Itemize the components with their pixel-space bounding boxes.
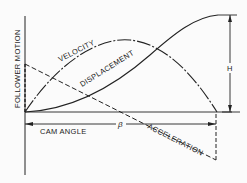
velocity-label: VELOCITY <box>57 38 96 64</box>
beta-label: β <box>117 120 123 129</box>
h-arrow-down-icon <box>228 105 232 112</box>
follower-motion-label: FOLLOWER MOTION <box>13 29 22 108</box>
beta-arrow-left-icon <box>25 122 33 126</box>
h-label: H <box>227 64 233 73</box>
displacement-label: DISPLACEMENT <box>78 48 135 89</box>
acceleration-label: ACCELERATION <box>146 122 205 158</box>
beta-arrow-right-icon <box>208 122 216 126</box>
velocity-curve <box>25 40 217 112</box>
cam-angle-label: CAM ANGLE <box>40 127 86 136</box>
cam-motion-diagram: H β CAM ANGLE FOLLOWER MOTION VELOCITY D… <box>0 0 247 183</box>
h-arrow-up-icon <box>228 15 232 22</box>
diagram-canvas: H β CAM ANGLE FOLLOWER MOTION VELOCITY D… <box>0 0 247 183</box>
